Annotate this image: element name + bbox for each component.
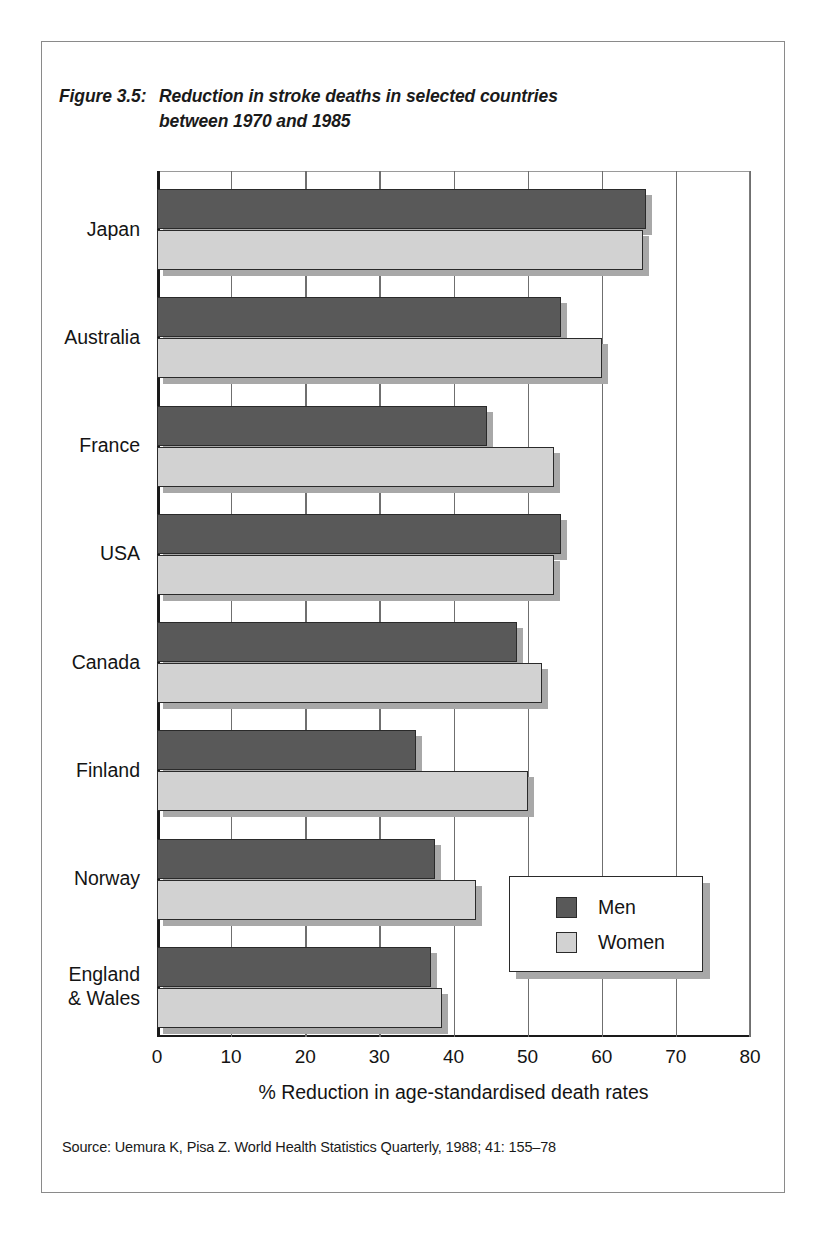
bar-fill — [157, 297, 561, 337]
bar-fill — [157, 947, 431, 987]
x-tick-label-30: 30 — [369, 1046, 390, 1068]
bar-fill — [157, 555, 554, 595]
legend-item-women: Women — [556, 931, 665, 954]
bar-usa-women — [157, 555, 554, 595]
bar-norway-men — [157, 839, 435, 879]
bar-japan-women — [157, 230, 643, 270]
bar-fill — [157, 406, 487, 446]
figure-title-line-2: between 1970 and 1985 — [159, 111, 350, 131]
bar-fill — [157, 338, 602, 378]
bar-france-women — [157, 447, 554, 487]
bar-japan-men — [157, 189, 646, 229]
category-label-canada: Canada — [0, 651, 140, 675]
bar-england-wales-women — [157, 988, 442, 1028]
figure-title-line-1: Reduction in stroke deaths in selected c… — [159, 86, 558, 106]
bar-fill — [157, 730, 416, 770]
x-tick-label-70: 70 — [665, 1046, 686, 1068]
x-tick-label-40: 40 — [443, 1046, 464, 1068]
category-label-norway: Norway — [0, 867, 140, 891]
bar-usa-men — [157, 514, 561, 554]
x-tick-label-0: 0 — [152, 1046, 163, 1068]
chart-legend: Men Women — [509, 876, 703, 972]
bar-fill — [157, 622, 517, 662]
bar-finland-men — [157, 730, 416, 770]
bar-fill — [157, 230, 643, 270]
bar-australia-women — [157, 338, 602, 378]
legend-swatch-women-icon — [556, 932, 577, 953]
bar-fill — [157, 514, 561, 554]
bar-norway-women — [157, 880, 476, 920]
bar-fill — [157, 988, 442, 1028]
figure-title: Figure 3.5:Reduction in stroke deaths in… — [59, 84, 709, 135]
source-note: Source: Uemura K, Pisa Z. World Health S… — [62, 1139, 556, 1155]
category-axis-labels: JapanAustraliaFranceUSACanadaFinlandNorw… — [0, 171, 140, 1037]
bar-fill — [157, 771, 528, 811]
x-tick-label-20: 20 — [295, 1046, 316, 1068]
x-axis-title: % Reduction in age-standardised death ra… — [157, 1081, 750, 1104]
category-label-australia: Australia — [0, 326, 140, 350]
category-label-france: France — [0, 434, 140, 458]
bar-australia-men — [157, 297, 561, 337]
legend-item-men: Men — [556, 896, 636, 919]
category-label-finland: Finland — [0, 759, 140, 783]
bar-canada-women — [157, 663, 542, 703]
bar-fill — [157, 839, 435, 879]
bar-fill — [157, 880, 476, 920]
bar-fill — [157, 447, 554, 487]
bar-fill — [157, 663, 542, 703]
category-label-england-wales: England & Wales — [0, 963, 140, 1011]
bar-canada-men — [157, 622, 517, 662]
bar-finland-women — [157, 771, 528, 811]
bar-fill — [157, 189, 646, 229]
gridline-80 — [750, 171, 751, 1037]
figure-number-label: Figure 3.5: — [59, 84, 159, 109]
category-label-japan: Japan — [0, 218, 140, 242]
x-tick-label-50: 50 — [517, 1046, 538, 1068]
x-tick-label-60: 60 — [591, 1046, 612, 1068]
bar-england-wales-men — [157, 947, 431, 987]
category-label-usa: USA — [0, 542, 140, 566]
x-tick-label-80: 80 — [739, 1046, 760, 1068]
bar-france-men — [157, 406, 487, 446]
x-tick-label-10: 10 — [221, 1046, 242, 1068]
legend-swatch-men-icon — [556, 897, 577, 918]
legend-label-men: Men — [598, 896, 636, 919]
legend-label-women: Women — [598, 931, 665, 954]
